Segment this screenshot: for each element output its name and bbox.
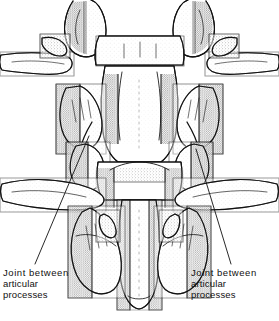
pedicle-upper-left	[40, 34, 70, 58]
upper-vertebral-arch	[95, 36, 184, 66]
callout-right-line-2: articular	[191, 278, 257, 289]
callout-left-line-1: Joint between	[3, 267, 69, 278]
callout-label-right: Joint between articular processes	[191, 267, 257, 301]
accessory-process-right	[159, 210, 183, 242]
callout-label-left: Joint between articular processes	[3, 267, 69, 301]
pedicle-upper-right	[209, 34, 239, 58]
callout-left-line-3: processes	[3, 289, 69, 300]
callout-right-line-3: processes	[191, 289, 257, 300]
figure-page: Joint between articular processes Joint …	[0, 0, 279, 321]
spinous-process-upper	[100, 66, 179, 162]
accessory-process-left	[96, 210, 120, 242]
callout-left-line-2: articular	[3, 278, 69, 289]
callout-right-line-1: Joint between	[191, 267, 257, 278]
